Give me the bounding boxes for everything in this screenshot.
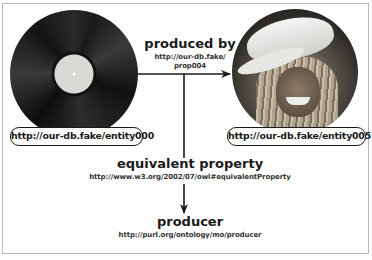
producer-title: producer: [120, 214, 260, 229]
produced-by-uri: http://our-db.fake/ prop004: [140, 53, 240, 71]
produced-by-title: produced by: [140, 36, 240, 51]
produced-by-uri-line2: prop004: [140, 62, 240, 71]
equivalent-property-title: equivalent property: [90, 156, 290, 171]
equivalent-property-uri: http://www.w3.org/2002/07/owl#equivalent…: [60, 173, 320, 182]
object-uri-label: http://our-db.fake/entity005: [227, 127, 366, 146]
produced-by-uri-line1: http://our-db.fake/: [140, 53, 240, 62]
producer-uri: http://purl.org/ontology/mo/producer: [90, 231, 290, 240]
subject-uri-label: http://our-db.fake/entity000: [10, 127, 143, 146]
